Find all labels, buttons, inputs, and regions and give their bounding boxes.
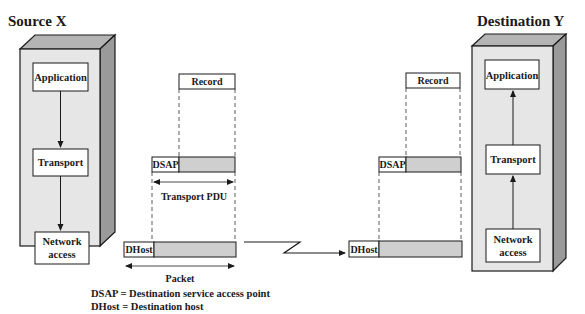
layer-label-line1: Network <box>42 236 81 247</box>
record-label: Record <box>417 75 449 86</box>
layer-label: Application <box>34 72 87 83</box>
destination-title: Destination Y <box>477 13 565 29</box>
protocol-diagram: Source X Application Transport Network a… <box>0 0 585 314</box>
sender-record: Record <box>179 74 235 89</box>
sender-packet: DHost <box>124 242 236 257</box>
network-link-zigzag <box>244 242 312 253</box>
legend-dsap: DSAP = Destination service access point <box>91 288 270 299</box>
destination-layer-transport: Transport <box>486 145 540 174</box>
layer-label-line2: access <box>48 249 75 260</box>
layer-label: Transport <box>490 154 536 165</box>
legend-dhost: DHost = Destination host <box>91 301 204 312</box>
packet-label: Packet <box>166 273 196 284</box>
source-layer-application: Application <box>33 63 88 91</box>
layer-label: Application <box>486 70 539 81</box>
receiver-packet: DHost <box>349 241 462 257</box>
source-layer-transport: Transport <box>33 149 88 176</box>
source-layer-network-access: Network access <box>35 232 89 264</box>
dhost-label: DHost <box>125 244 153 255</box>
dhost-label: DHost <box>350 244 378 255</box>
destination-layer-application: Application <box>485 60 539 89</box>
record-label: Record <box>191 76 223 87</box>
receiver-transport-pdu: DSAP <box>379 157 461 172</box>
destination-layer-network-access: Network access <box>486 229 540 262</box>
dsap-label: DSAP <box>379 159 405 170</box>
transport-pdu-label: Transport PDU <box>161 191 227 202</box>
dsap-label: DSAP <box>152 159 178 170</box>
sender-transport-pdu: DSAP <box>152 157 235 172</box>
layer-label: Transport <box>38 157 84 168</box>
layer-label-line1: Network <box>493 234 532 245</box>
receiver-record: Record <box>406 73 460 88</box>
layer-label-line2: access <box>499 247 526 258</box>
source-title: Source X <box>8 13 67 29</box>
